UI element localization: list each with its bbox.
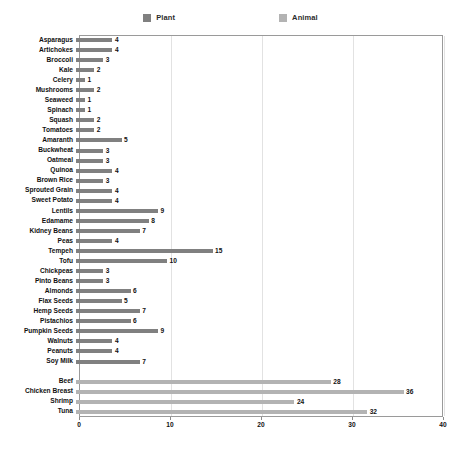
bar[interactable] — [76, 149, 103, 153]
bar-row: Peas4 — [0, 236, 461, 246]
legend-swatch-icon — [143, 14, 151, 22]
bar[interactable] — [76, 98, 85, 102]
bar[interactable] — [76, 249, 213, 253]
bar[interactable] — [76, 209, 158, 213]
bar[interactable] — [76, 229, 140, 233]
x-tick — [261, 417, 262, 420]
bar-value-label: 7 — [142, 308, 146, 315]
bar-value-label: 3 — [106, 177, 110, 184]
bar-value-label: 15 — [215, 248, 222, 255]
bar[interactable] — [76, 259, 167, 263]
bar[interactable] — [76, 329, 158, 333]
x-tick-label: 20 — [257, 422, 264, 429]
bar[interactable] — [76, 159, 103, 163]
category-label: Tuna — [0, 408, 76, 415]
bar-track: 5 — [76, 296, 461, 306]
legend-item-plant[interactable]: Plant — [143, 14, 175, 22]
bar[interactable] — [76, 138, 122, 142]
bar-track: 15 — [76, 246, 461, 256]
bar[interactable] — [76, 349, 112, 353]
bar-track: 6 — [76, 316, 461, 326]
category-label: Peas — [0, 238, 76, 245]
bar-track: 4 — [76, 186, 461, 196]
bar-row: Pistachios6 — [0, 316, 461, 326]
bar[interactable] — [76, 108, 85, 112]
bar[interactable] — [76, 299, 122, 303]
bar-track: 1 — [76, 105, 461, 115]
bar-value-label: 1 — [88, 77, 92, 84]
category-label: Pinto Beans — [0, 278, 76, 285]
bar[interactable] — [76, 48, 112, 52]
bar-row: Pinto Beans3 — [0, 276, 461, 286]
bar[interactable] — [76, 319, 131, 323]
bar[interactable] — [76, 68, 94, 72]
bar-row: Mushrooms2 — [0, 85, 461, 95]
bar-track: 10 — [76, 256, 461, 266]
bar-row: Soy Milk7 — [0, 357, 461, 367]
bar-row: Edamame8 — [0, 216, 461, 226]
bar[interactable] — [76, 189, 112, 193]
category-label: Beef — [0, 378, 76, 385]
bar[interactable] — [76, 289, 131, 293]
bar[interactable] — [76, 128, 94, 132]
bar-track: 32 — [76, 407, 461, 417]
x-tick — [443, 417, 444, 420]
bar-value-label: 24 — [297, 398, 304, 405]
bar-track: 9 — [76, 206, 461, 216]
bar[interactable] — [76, 239, 112, 243]
bar-track: 3 — [76, 176, 461, 186]
bar-track: 5 — [76, 135, 461, 145]
bar-value-label: 4 — [115, 37, 119, 44]
bar[interactable] — [76, 219, 149, 223]
bar-track: 4 — [76, 346, 461, 356]
bar-row: Seaweed1 — [0, 95, 461, 105]
bar-track: 3 — [76, 266, 461, 276]
bar-row: Buckwheat3 — [0, 146, 461, 156]
bar[interactable] — [76, 118, 94, 122]
bar-value-label: 9 — [160, 328, 164, 335]
category-label: Chicken Breast — [0, 388, 76, 395]
bar-track: 1 — [76, 75, 461, 85]
bar[interactable] — [76, 38, 112, 42]
bar-value-label: 1 — [88, 107, 92, 114]
bar[interactable] — [76, 410, 367, 414]
category-label: Amaranth — [0, 137, 76, 144]
category-label: Sweet Potato — [0, 197, 76, 204]
bar-row: Broccoli3 — [0, 55, 461, 65]
bar[interactable] — [76, 78, 85, 82]
bar-row: Almonds6 — [0, 286, 461, 296]
bar[interactable] — [76, 339, 112, 343]
bar[interactable] — [76, 380, 331, 384]
bar-value-label: 4 — [115, 338, 119, 345]
bar[interactable] — [76, 88, 94, 92]
bar[interactable] — [76, 390, 404, 394]
bar[interactable] — [76, 269, 103, 273]
bar-row: Celery1 — [0, 75, 461, 85]
bar[interactable] — [76, 169, 112, 173]
bar[interactable] — [76, 400, 294, 404]
x-tick-label: 10 — [166, 422, 173, 429]
bar-row: Lentils9 — [0, 206, 461, 216]
category-label: Flax Seeds — [0, 298, 76, 305]
bar[interactable] — [76, 279, 103, 283]
bar[interactable] — [76, 58, 103, 62]
bar-value-label: 2 — [97, 67, 101, 74]
legend-item-animal[interactable]: Animal — [279, 14, 318, 22]
category-label: Kidney Beans — [0, 228, 76, 235]
bar[interactable] — [76, 199, 112, 203]
bar-value-label: 2 — [97, 117, 101, 124]
bar-track: 3 — [76, 146, 461, 156]
bar[interactable] — [76, 179, 103, 183]
bar-chart: PlantAnimal Asparagus4Artichokes4Broccol… — [0, 0, 461, 461]
bar[interactable] — [76, 360, 140, 364]
bar-value-label: 7 — [142, 228, 146, 235]
bar-value-label: 3 — [106, 278, 110, 285]
bar-value-label: 3 — [106, 57, 110, 64]
category-label: Artichokes — [0, 47, 76, 54]
bar-value-label: 7 — [142, 358, 146, 365]
bar-row: Shrimp24 — [0, 397, 461, 407]
bar-row: Kale2 — [0, 65, 461, 75]
category-label: Peanuts — [0, 348, 76, 355]
bar[interactable] — [76, 309, 140, 313]
category-label: Shrimp — [0, 398, 76, 405]
